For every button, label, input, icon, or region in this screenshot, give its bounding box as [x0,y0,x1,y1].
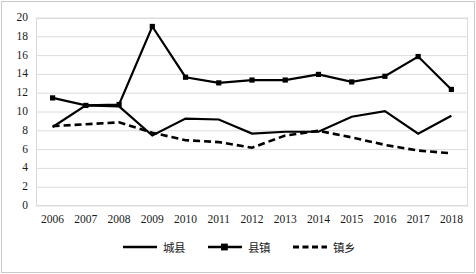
data-point-marker [50,95,55,100]
legend-label: 县镇 [248,239,270,255]
legend-swatch-dashed [292,241,328,253]
series-layer [50,24,454,154]
legend-marker [221,244,228,251]
data-point-marker [416,54,421,59]
data-point-marker [249,77,254,82]
data-point-marker [150,24,155,29]
data-point-marker [116,102,121,107]
legend-item-3[interactable]: 镇乡 [292,239,355,255]
legend-swatch-solid-marker [207,241,243,253]
series-3 [53,122,452,153]
data-point-marker [449,87,454,92]
data-point-marker [183,75,188,80]
data-point-marker [316,72,321,77]
data-point-marker [216,80,221,85]
data-point-marker [83,103,88,108]
chart-legend: 城县县镇镇乡 [0,239,476,255]
data-point-marker [283,77,288,82]
legend-swatch-solid [122,241,158,253]
chart-canvas [0,0,476,274]
series-line [53,122,452,153]
legend-label: 镇乡 [333,239,355,255]
data-point-marker [349,79,354,84]
data-point-marker [382,74,387,79]
line-chart: 02468101214161820 2006200720082009201020… [0,0,476,274]
legend-label: 城县 [163,239,185,255]
legend-item-1[interactable]: 城县 [122,239,185,255]
legend-item-2[interactable]: 县镇 [207,239,270,255]
gridlines [36,18,468,206]
